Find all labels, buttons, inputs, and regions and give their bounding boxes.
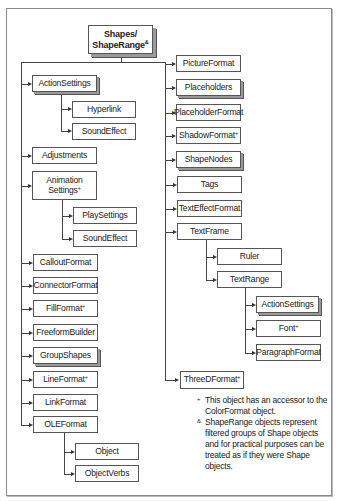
node-label: PlaySettings — [82, 211, 127, 221]
node-label: ShapeNodes — [185, 155, 233, 165]
node-label: FreeformBuilder — [36, 328, 95, 338]
node-label: CalloutFormat — [40, 258, 91, 268]
node-label: Font+ — [279, 324, 298, 334]
node-placeholders[interactable]: Placeholders — [176, 79, 241, 96]
node-object[interactable]: Object — [75, 443, 139, 460]
node-label: ActionSettings — [38, 79, 90, 89]
node-label: GroupShapes — [40, 351, 91, 361]
node-label: TextFrame — [190, 227, 229, 237]
node-ruler[interactable]: Ruler — [217, 248, 282, 265]
node-label: Tags — [201, 180, 218, 190]
node-label: PlaceholderFormat — [174, 108, 243, 118]
node-label: SoundEffect — [82, 127, 126, 137]
node-adjustments[interactable]: Adjustments — [32, 147, 97, 164]
node-label: OLEFormat — [44, 420, 87, 430]
node-label: ShadowFormat+ — [179, 131, 238, 141]
node-label: ConnectorFormat — [34, 281, 98, 291]
footnotes: +This object has an accessor to the Colo… — [197, 395, 329, 472]
node-shapes-shaperange[interactable]: Shapes/ ShapeRange& — [88, 25, 153, 54]
node-tags[interactable]: Tags — [177, 176, 242, 193]
node-label: Shapes/ — [104, 29, 137, 39]
left-trunk — [21, 62, 22, 426]
footnote-marker: & — [197, 416, 201, 427]
node-label: Settings+ — [48, 186, 80, 196]
node-label: LineFormat+ — [43, 375, 87, 385]
footnote-color: +This object has an accessor to the Colo… — [197, 395, 329, 417]
node-label: FillFormat+ — [46, 304, 85, 314]
node-fillformat[interactable]: FillFormat+ — [33, 300, 98, 317]
connector — [61, 93, 62, 131]
node-calloutformat[interactable]: CalloutFormat — [33, 254, 98, 271]
node-label: Object — [95, 447, 119, 457]
node-oleformat[interactable]: OLEFormat — [33, 416, 98, 433]
node-linkformat[interactable]: LinkFormat — [33, 394, 98, 411]
node-actionsettings[interactable]: ActionSettings — [32, 75, 97, 92]
node-textframe[interactable]: TextFrame — [177, 223, 242, 240]
footnote-marker: + — [197, 394, 200, 405]
root-bar — [21, 62, 166, 63]
connector — [245, 288, 246, 353]
node-textrange[interactable]: TextRange — [217, 271, 282, 288]
node-label: ParagraphFormat — [256, 348, 320, 358]
node-label: PictureFormat — [183, 59, 234, 69]
node-textrange-actionsettings[interactable]: ActionSettings — [256, 296, 319, 313]
node-label: ThreeDFormat+ — [184, 375, 241, 385]
node-soundeffect-2[interactable]: SoundEffect — [73, 230, 137, 247]
node-groupshapes[interactable]: GroupShapes — [33, 347, 98, 364]
node-label: ShapeRange& — [92, 40, 148, 50]
connector — [62, 200, 63, 239]
node-label: ActionSettings — [261, 300, 313, 310]
node-playsettings[interactable]: PlaySettings — [73, 207, 137, 224]
arrow-icon — [175, 378, 179, 382]
footnote-range: &ShapeRange objects represent filtered g… — [197, 417, 329, 472]
node-animationsettings[interactable]: Animation Settings+ — [32, 171, 97, 200]
right-trunk — [165, 62, 166, 380]
node-placeholderformat[interactable]: PlaceholderFormat — [176, 104, 241, 121]
root-stem — [121, 54, 122, 62]
node-hyperlink[interactable]: Hyperlink — [72, 101, 136, 118]
node-label: SoundEffect — [83, 234, 127, 244]
node-label: Adjustments — [42, 151, 87, 161]
node-label: Ruler — [240, 252, 260, 262]
node-freeformbuilder[interactable]: FreeformBuilder — [33, 324, 98, 341]
node-threedformat[interactable]: ThreeDFormat+ — [180, 371, 244, 389]
node-label: TextRange — [230, 275, 269, 285]
node-font[interactable]: Font+ — [256, 320, 321, 337]
connector — [206, 240, 207, 280]
node-paragraphformat[interactable]: ParagraphFormat — [256, 344, 321, 361]
node-shapenodes[interactable]: ShapeNodes — [176, 151, 241, 168]
node-shadowformat[interactable]: ShadowFormat+ — [176, 127, 241, 144]
node-label: Placeholders — [185, 83, 232, 93]
node-soundeffect[interactable]: SoundEffect — [72, 123, 136, 140]
node-texteffectformat[interactable]: TextEffectFormat — [177, 200, 242, 217]
node-connectorformat[interactable]: ConnectorFormat — [33, 277, 98, 294]
footnote-text: ShapeRange objects represent filtered gr… — [205, 417, 324, 471]
node-label: Hyperlink — [87, 105, 121, 115]
connector — [64, 433, 65, 474]
node-pictureformat[interactable]: PictureFormat — [176, 55, 241, 72]
footnote-text: This object has an accessor to the Color… — [205, 395, 327, 416]
node-objectverbs[interactable]: ObjectVerbs — [75, 465, 139, 482]
node-label: TextEffectFormat — [179, 204, 241, 214]
node-label: ObjectVerbs — [85, 469, 130, 479]
node-label: LinkFormat — [45, 398, 86, 408]
node-lineformat[interactable]: LineFormat+ — [33, 371, 98, 388]
